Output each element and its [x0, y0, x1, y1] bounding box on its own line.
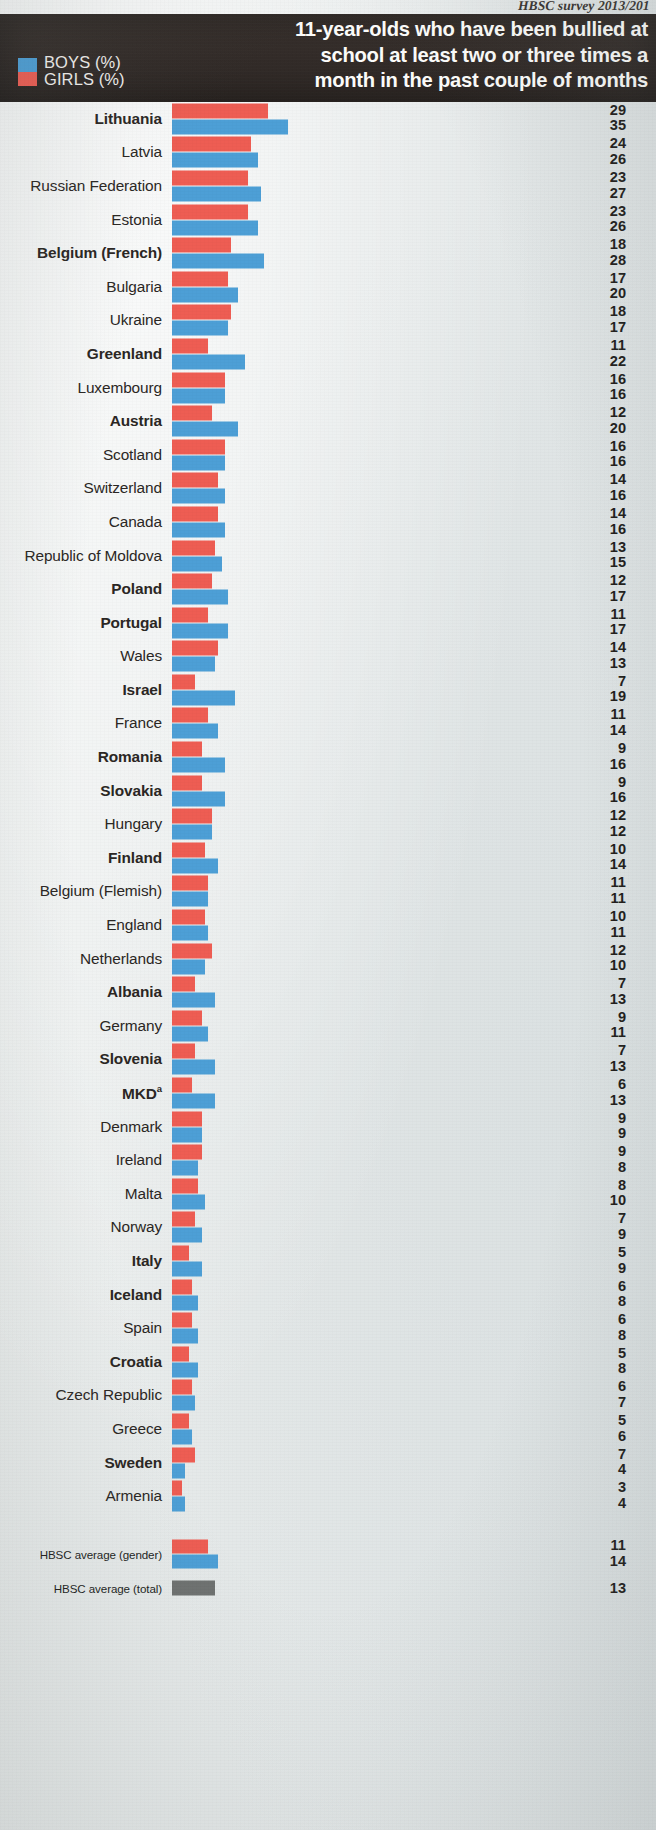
value-labels: 2935: [610, 103, 626, 134]
value-labels: 34: [618, 1481, 626, 1512]
value-girls: 6: [618, 1380, 626, 1396]
average-total-row: HBSC average (total)13: [0, 1573, 656, 1603]
value-labels: 1114: [610, 708, 626, 739]
bar-girls: [172, 1413, 189, 1428]
chart-row: Republic of Moldova1315: [0, 539, 656, 573]
value-boys: 8: [618, 1160, 626, 1176]
bar-boys: [172, 1026, 208, 1041]
bar-girls: [172, 271, 228, 286]
value-girls: 16: [610, 439, 626, 455]
value-labels: 1720: [610, 271, 626, 302]
value-labels: 1212: [610, 809, 626, 840]
bar-girls: [172, 1111, 202, 1126]
value-boys: 9: [618, 1127, 626, 1143]
value-labels: 1416: [610, 473, 626, 504]
bar-group: [172, 775, 225, 806]
chart-row: Finland1014: [0, 841, 656, 875]
value-boys: 20: [610, 287, 626, 303]
bar-boys: [172, 758, 225, 773]
value-girls: 18: [610, 238, 626, 254]
bar-boys: [172, 455, 225, 470]
value-girls: 17: [610, 271, 626, 287]
value-labels: 719: [610, 674, 626, 705]
value-girls: 7: [618, 1212, 626, 1228]
legend-swatches: [18, 58, 37, 86]
value-boys: 12: [610, 824, 626, 840]
bar-group: [172, 1313, 198, 1344]
country-label: Finland: [0, 849, 162, 867]
value-labels: 1014: [610, 842, 626, 873]
country-label: Malta: [0, 1185, 162, 1203]
country-label: France: [0, 714, 162, 732]
legend-swatch-girls-icon: [18, 72, 37, 86]
bar-girls: [172, 338, 208, 353]
value-boys: 9: [618, 1227, 626, 1243]
value-boys: 27: [610, 186, 626, 202]
bar-group: [172, 708, 218, 739]
country-label: Latvia: [0, 143, 162, 161]
bar-girls: [172, 204, 248, 219]
bar-group: [172, 674, 235, 705]
bar-group: [172, 876, 208, 907]
value-labels: 67: [618, 1380, 626, 1411]
bar-boys: [172, 119, 288, 134]
chart-header-banner: BOYS (%) GIRLS (%) 11-year-olds who have…: [0, 14, 656, 102]
bar-group: [172, 238, 264, 269]
bar-boys: [172, 1261, 202, 1276]
country-label: Slovenia: [0, 1050, 162, 1068]
value-labels: 2326: [610, 204, 626, 235]
bar-girls: [172, 372, 225, 387]
value-girls: 9: [610, 741, 626, 757]
country-label: Norway: [0, 1218, 162, 1236]
value-labels: 713: [610, 977, 626, 1008]
value-labels: 1413: [610, 641, 626, 672]
bar-girls: [172, 1044, 195, 1059]
value-boys: 26: [610, 220, 626, 236]
value-labels: 1817: [610, 305, 626, 336]
bar-group: [172, 170, 261, 201]
value-labels: 911: [611, 1010, 626, 1041]
value-labels: 13: [610, 1580, 626, 1595]
bar-girls: [172, 1078, 192, 1093]
value-boys: 16: [610, 522, 626, 538]
value-labels: 68: [618, 1313, 626, 1344]
bar-girls: [172, 439, 225, 454]
country-label: Luxembourg: [0, 379, 162, 397]
value-boys: 6: [618, 1429, 626, 1445]
value-girls: 14: [610, 641, 626, 657]
bar-boys: [172, 522, 225, 537]
country-label: MKDa: [0, 1083, 162, 1102]
value-boys: 13: [610, 1059, 626, 1075]
bar-group: [172, 1346, 198, 1377]
value-labels: 59: [618, 1245, 626, 1276]
bar-girls: [172, 1346, 189, 1361]
value-labels: 1416: [610, 506, 626, 537]
value-boys: 17: [610, 589, 626, 605]
bar-group: [172, 540, 222, 571]
average-gender-row: HBSC average (gender)1114: [0, 1535, 656, 1573]
bar-boys: [172, 791, 225, 806]
bar-group: [172, 1539, 218, 1568]
chart-row: Malta810: [0, 1177, 656, 1211]
chart-row: Romania916: [0, 740, 656, 774]
value-girls: 14: [610, 473, 626, 489]
value-labels: 2426: [610, 137, 626, 168]
legend-label-boys: BOYS (%): [44, 54, 125, 71]
value-labels: 98: [618, 1145, 626, 1176]
bar-group: [172, 1580, 215, 1595]
country-label: Albania: [0, 983, 162, 1001]
bar-group: [172, 977, 215, 1008]
value-labels: 1616: [610, 372, 626, 403]
country-label: Netherlands: [0, 950, 162, 968]
bar-group: [172, 1413, 192, 1444]
bar-boys: [172, 1228, 202, 1243]
bar-group: [172, 271, 238, 302]
value-boys: 4: [618, 1496, 626, 1512]
bar-group: [172, 943, 212, 974]
bar-group: [172, 910, 208, 941]
bar-boys: [172, 1127, 202, 1142]
legend: BOYS (%) GIRLS (%): [18, 54, 125, 88]
chart-row: Poland1217: [0, 572, 656, 606]
bar-group: [172, 1145, 202, 1176]
bar-girls: [172, 506, 218, 521]
